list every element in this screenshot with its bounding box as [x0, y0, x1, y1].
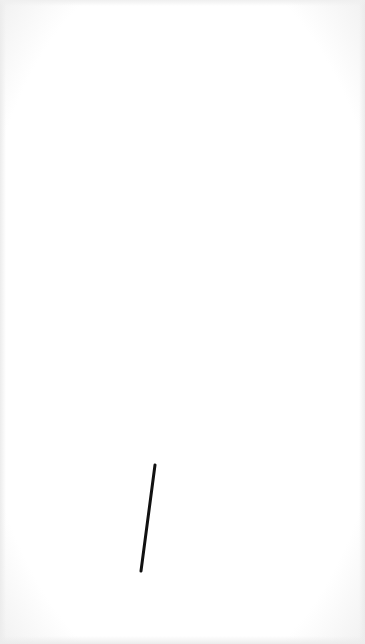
drawing-canvas[interactable]: [0, 0, 365, 644]
stroke-layer: [0, 0, 365, 644]
pen-stroke: [141, 465, 155, 571]
